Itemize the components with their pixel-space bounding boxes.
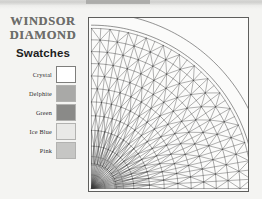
mesh-line bbox=[146, 38, 150, 52]
mesh-line bbox=[154, 124, 167, 129]
dome-mesh-group bbox=[91, 18, 248, 189]
swatch-row-green: Green bbox=[2, 103, 86, 122]
mesh-line bbox=[100, 29, 110, 40]
mesh-line bbox=[224, 122, 238, 125]
swatch-color-ice-blue bbox=[56, 123, 76, 140]
mesh-line bbox=[91, 28, 100, 40]
mesh-line bbox=[209, 146, 223, 149]
swatch-color-green bbox=[56, 104, 76, 121]
mesh-line bbox=[223, 149, 236, 154]
mesh-line bbox=[100, 40, 107, 52]
mesh-line bbox=[91, 79, 207, 189]
mesh-line bbox=[210, 120, 224, 122]
swatch-color-crystal bbox=[56, 66, 76, 83]
mesh-line bbox=[105, 119, 112, 132]
brand-line-2: DIAMOND bbox=[0, 28, 86, 42]
mesh-line bbox=[149, 178, 164, 180]
mesh-line bbox=[127, 69, 130, 83]
mesh-line bbox=[116, 187, 134, 188]
mesh-line bbox=[217, 134, 231, 137]
mesh-line bbox=[231, 125, 238, 138]
mesh-line bbox=[91, 64, 98, 76]
mesh-line bbox=[121, 97, 131, 107]
mesh-line bbox=[111, 104, 112, 119]
mesh-line bbox=[213, 160, 226, 165]
mesh-line bbox=[179, 55, 180, 70]
mesh-line bbox=[128, 116, 139, 125]
mesh-line bbox=[131, 88, 142, 97]
mesh-line bbox=[188, 166, 202, 169]
mesh-line bbox=[204, 182, 217, 189]
mesh-line bbox=[239, 171, 248, 179]
mesh-line bbox=[91, 149, 134, 189]
mesh-line bbox=[153, 66, 154, 80]
swatch-label-ice-blue: Ice Blue bbox=[30, 128, 56, 135]
mesh-line bbox=[91, 52, 98, 64]
mesh-line bbox=[236, 154, 248, 160]
mesh-line bbox=[160, 154, 171, 163]
mesh-line bbox=[195, 144, 209, 146]
swatch-label-crystal: Crystal bbox=[33, 71, 56, 78]
mesh-line bbox=[163, 45, 165, 59]
mesh-line bbox=[113, 137, 118, 152]
mesh-line bbox=[91, 29, 100, 189]
mesh-line bbox=[97, 89, 101, 103]
document-page: WINDSOR DIAMOND Swatches Crystal Delphit… bbox=[0, 0, 262, 199]
mesh-line bbox=[154, 116, 160, 129]
mesh-line bbox=[130, 102, 141, 111]
cropped-text-ghost bbox=[86, 0, 150, 4]
mesh-line bbox=[164, 180, 178, 183]
mesh-line bbox=[215, 174, 228, 181]
mesh-line bbox=[117, 42, 123, 55]
mesh-line bbox=[141, 94, 153, 102]
mesh-line bbox=[228, 181, 240, 189]
mesh-line bbox=[216, 181, 228, 189]
mesh-line bbox=[191, 93, 205, 95]
mesh-line bbox=[216, 107, 230, 109]
mesh-line bbox=[193, 79, 207, 81]
mesh-line bbox=[151, 94, 153, 108]
mesh-line bbox=[110, 29, 117, 42]
mesh-line bbox=[202, 169, 215, 174]
swatch-color-pink bbox=[56, 142, 76, 159]
left-column: WINDSOR DIAMOND Swatches Crystal Delphit… bbox=[0, 14, 86, 160]
swatch-label-delphite: Delphite bbox=[29, 90, 56, 97]
mesh-line bbox=[150, 52, 153, 66]
mesh-line bbox=[168, 111, 173, 124]
mesh-line bbox=[201, 93, 205, 107]
mesh-line bbox=[191, 177, 204, 182]
swatch-label-green: Green bbox=[36, 109, 56, 116]
mesh-line bbox=[226, 165, 239, 172]
mesh-line bbox=[91, 40, 100, 51]
mesh-line bbox=[187, 107, 201, 108]
mesh-line bbox=[151, 102, 164, 108]
mesh-line bbox=[162, 172, 176, 174]
mesh-line bbox=[178, 177, 191, 184]
mesh-line bbox=[185, 154, 199, 156]
mesh-line bbox=[203, 132, 217, 134]
mesh-line bbox=[96, 116, 99, 131]
mesh-line bbox=[153, 80, 154, 94]
mesh-line bbox=[104, 117, 105, 132]
mesh-line bbox=[98, 131, 99, 147]
mesh-line bbox=[124, 154, 138, 161]
mesh-line bbox=[120, 93, 121, 107]
mesh-line bbox=[134, 38, 146, 46]
dome-diagram-svg bbox=[89, 18, 248, 191]
mesh-line bbox=[102, 103, 105, 117]
mesh-line bbox=[91, 130, 93, 146]
mesh-line bbox=[215, 165, 226, 174]
mesh-line bbox=[91, 86, 214, 189]
mesh-line bbox=[130, 97, 131, 111]
mesh-line bbox=[149, 185, 164, 188]
mesh-line bbox=[174, 154, 185, 163]
mesh-line bbox=[130, 83, 131, 97]
mesh-line bbox=[191, 182, 204, 189]
mesh-line bbox=[181, 132, 189, 143]
mesh-line bbox=[105, 77, 109, 91]
mesh-line bbox=[162, 164, 174, 172]
mesh-line bbox=[171, 144, 181, 154]
mesh-line bbox=[134, 46, 138, 60]
mesh-line bbox=[109, 90, 112, 104]
mesh-line bbox=[128, 33, 134, 46]
